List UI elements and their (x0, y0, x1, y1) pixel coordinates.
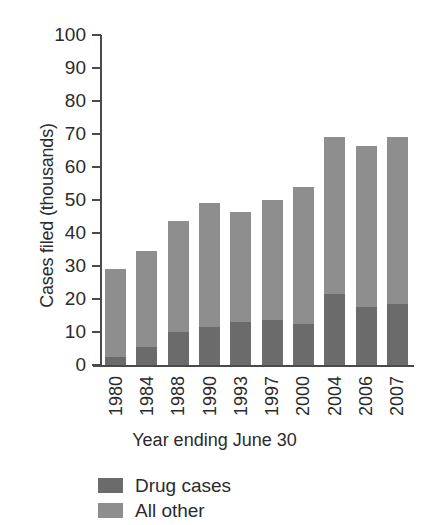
bar-segment-drug-cases (356, 307, 377, 365)
x-axis-tick-label: 2007 (387, 368, 408, 424)
bar-segment-drug-cases (168, 332, 189, 365)
bar-group (230, 212, 251, 365)
x-axis-tick-label: 1988 (168, 368, 189, 424)
bar-segment-drug-cases (199, 327, 220, 365)
y-axis-tick-label: 20 (0, 289, 86, 308)
x-axis-tick-label-text: 1980 (105, 376, 126, 416)
y-axis-tick-label: 10 (0, 322, 86, 341)
x-axis-tick-label: 2006 (356, 368, 377, 424)
x-axis-tick-label-text: 2000 (293, 376, 314, 416)
x-axis-tick-label: 1984 (136, 368, 157, 424)
y-axis-tick-label: 80 (0, 91, 86, 110)
legend-item: Drug cases (98, 473, 231, 498)
bar-segment-all-other (230, 212, 251, 323)
x-axis-tick-label-text: 1993 (230, 376, 251, 416)
bar-segment-all-other (168, 221, 189, 332)
y-axis-tick-label-text: 70 (0, 124, 86, 143)
y-axis-tick-label-text: 90 (0, 58, 86, 77)
y-axis-tick-label: 30 (0, 256, 86, 275)
x-axis-tick-label: 2004 (324, 368, 345, 424)
bar-group (293, 187, 314, 365)
bar-segment-drug-cases (136, 347, 157, 365)
bar-segment-all-other (356, 146, 377, 308)
y-axis-tick-label-text: 20 (0, 289, 86, 308)
y-axis-tick-label: 50 (0, 190, 86, 209)
bar-segment-drug-cases (324, 294, 345, 365)
y-axis-tick-label-text: 60 (0, 157, 86, 176)
stacked-bar-chart: Cases filed (thousands) 1009080706050403… (0, 0, 429, 525)
x-axis-tick-label: 1997 (262, 368, 283, 424)
x-axis-tick-label-text: 2004 (324, 376, 345, 416)
y-axis-tick-label-text: 80 (0, 91, 86, 110)
y-axis-tick-label-text: 10 (0, 322, 86, 341)
bar-group (262, 200, 283, 365)
y-axis-tick-label: 0 (0, 355, 86, 374)
bar-segment-all-other (199, 203, 220, 327)
y-axis-tick-label: 60 (0, 157, 86, 176)
x-axis-tick-label: 1993 (230, 368, 251, 424)
bar-group (356, 146, 377, 365)
bar-segment-all-other (324, 137, 345, 294)
bar-group (168, 221, 189, 365)
y-axis-tick-label-text: 0 (0, 355, 86, 374)
bar-group (387, 137, 408, 365)
x-axis-line (93, 365, 414, 367)
y-axis-tick-label-text: 40 (0, 223, 86, 242)
x-axis-tick-label-text: 1984 (136, 376, 157, 416)
x-axis-tick-label: 1980 (105, 368, 126, 424)
x-axis-tick-label-text: 2006 (356, 376, 377, 416)
legend-swatch (98, 503, 123, 518)
bar-segment-drug-cases (262, 320, 283, 365)
legend-label: Drug cases (135, 475, 231, 497)
bar-segment-all-other (105, 269, 126, 356)
bar-segment-all-other (293, 187, 314, 324)
x-axis-tick-label-text: 1990 (199, 376, 220, 416)
bars-layer (100, 35, 413, 365)
bar-group (105, 269, 126, 365)
y-axis-tick-label: 100 (0, 25, 86, 44)
x-axis-title: Year ending June 30 (0, 430, 429, 451)
y-axis-tick-label: 40 (0, 223, 86, 242)
y-axis-tick-label-text: 50 (0, 190, 86, 209)
bar-group (199, 203, 220, 365)
x-axis-tick-label-text: 1997 (262, 376, 283, 416)
legend-swatch (98, 478, 123, 493)
bar-segment-drug-cases (293, 324, 314, 365)
x-axis-tick-labels: 1980198419881990199319972000200420062007 (100, 368, 413, 426)
chart-legend: Drug casesAll other (98, 473, 231, 523)
y-axis-tick-label: 70 (0, 124, 86, 143)
bar-segment-drug-cases (230, 322, 251, 365)
bar-segment-all-other (136, 251, 157, 347)
legend-item: All other (98, 498, 231, 523)
y-axis-tick-label-text: 30 (0, 256, 86, 275)
bar-segment-drug-cases (105, 357, 126, 365)
bar-segment-drug-cases (387, 304, 408, 365)
legend-label: All other (135, 500, 205, 522)
bar-segment-all-other (387, 137, 408, 304)
bar-segment-all-other (262, 200, 283, 320)
x-axis-tick-label-text: 2007 (387, 376, 408, 416)
bar-group (324, 137, 345, 365)
bar-group (136, 251, 157, 365)
y-axis-tick-label: 90 (0, 58, 86, 77)
x-axis-tick-label-text: 1988 (168, 376, 189, 416)
y-axis-tick-label-text: 100 (0, 25, 86, 44)
x-axis-tick-label: 1990 (199, 368, 220, 424)
x-axis-tick-label: 2000 (293, 368, 314, 424)
